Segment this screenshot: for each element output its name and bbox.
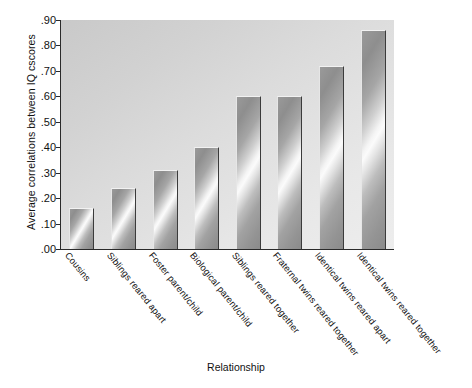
- bar: [361, 30, 386, 249]
- bar: [319, 66, 344, 249]
- y-tick-label: .90: [41, 15, 56, 26]
- y-tick-label: .40: [41, 142, 56, 153]
- bar-series: [61, 20, 394, 249]
- bar: [194, 147, 219, 249]
- bar: [153, 170, 178, 249]
- y-tick-label: .60: [41, 91, 56, 102]
- y-tick-label: .80: [41, 40, 56, 51]
- x-tick-label: Identical twins reared apart: [313, 251, 392, 346]
- y-tick-label: .50: [41, 116, 56, 127]
- y-tick-mark: [56, 71, 61, 72]
- bar: [111, 188, 136, 249]
- y-tick-label: .70: [41, 65, 56, 76]
- y-tick-label: .00: [41, 244, 56, 255]
- x-axis-title: Relationship: [0, 361, 472, 373]
- y-tick-mark: [56, 224, 61, 225]
- bar: [277, 96, 302, 249]
- y-axis-tick-labels: .00.10.20.30.40.50.60.70.80.90: [30, 20, 56, 249]
- x-tick-label: Cousins: [63, 251, 92, 284]
- chart-figure: Average correlations between IQ cscores …: [0, 0, 472, 388]
- y-tick-mark: [56, 122, 61, 123]
- y-tick-mark: [56, 96, 61, 97]
- y-tick-mark: [56, 147, 61, 148]
- bar: [236, 96, 261, 249]
- y-tick-mark: [56, 249, 61, 250]
- y-tick-mark: [56, 20, 61, 21]
- y-tick-label: .30: [41, 167, 56, 178]
- y-tick-mark: [56, 45, 61, 46]
- plot-area: [60, 20, 394, 250]
- bar: [69, 208, 94, 249]
- y-tick-label: .10: [41, 218, 56, 229]
- y-tick-mark: [56, 198, 61, 199]
- y-tick-mark: [56, 173, 61, 174]
- x-axis-tick-labels: CousinsSiblings reared apartFoster paren…: [60, 251, 400, 361]
- x-tick-label: Fraternal twins reared together: [271, 251, 360, 358]
- y-tick-label: .20: [41, 193, 56, 204]
- x-tick-label: Identical twins reared together: [354, 251, 442, 356]
